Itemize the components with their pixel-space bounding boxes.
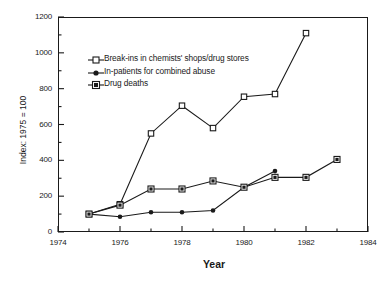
filled-dot-marker-icon xyxy=(88,65,104,77)
chart-container: 020040060080010001200 197419761978198019… xyxy=(0,0,388,281)
series-1 xyxy=(87,169,278,219)
x-axis-title: Year xyxy=(134,258,294,270)
x-tick-label: 1978 xyxy=(162,238,202,247)
chart-legend: Break-ins in chemists' shops/drug stores… xyxy=(88,52,249,90)
open-square-marker-icon xyxy=(88,52,104,64)
x-tick-label: 1980 xyxy=(224,238,264,247)
y-tick-label: 1000 xyxy=(18,48,52,57)
legend-label-in-patients: In-patients for combined abuse xyxy=(104,66,215,76)
y-axis-title: Index: 1975 = 100 xyxy=(18,60,28,200)
y-tick-label: 1200 xyxy=(18,12,52,21)
x-tick-label: 1982 xyxy=(286,238,326,247)
series-2 xyxy=(86,156,340,217)
legend-label-drug-deaths: Drug deaths xyxy=(104,78,148,88)
legend-item-drug-deaths: Drug deaths xyxy=(88,77,249,90)
x-tick-label: 1974 xyxy=(38,238,78,247)
axis-ticks xyxy=(58,17,368,232)
legend-label-break-ins: Break-ins in chemists' shops/drug stores xyxy=(104,53,249,63)
y-tick-label: 0 xyxy=(18,227,52,236)
x-tick-label: 1976 xyxy=(100,238,140,247)
filled-square-marker-icon xyxy=(88,77,104,89)
legend-item-break-ins: Break-ins in chemists' shops/drug stores xyxy=(88,52,249,65)
x-tick-label: 1984 xyxy=(348,238,388,247)
legend-item-in-patients: In-patients for combined abuse xyxy=(88,65,249,78)
